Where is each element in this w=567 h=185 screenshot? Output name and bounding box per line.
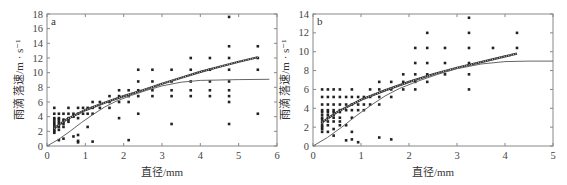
data-point <box>137 112 140 115</box>
data-point <box>426 32 429 35</box>
data-point <box>228 68 231 71</box>
data-point <box>108 95 111 98</box>
data-point <box>327 88 330 91</box>
data-point <box>118 89 121 92</box>
data-point <box>332 120 335 123</box>
data-point <box>444 73 447 76</box>
data-point <box>444 62 447 65</box>
data-point <box>170 95 173 98</box>
data-point <box>108 107 111 110</box>
y-tick-label: 8 <box>38 82 43 93</box>
y-tick-label: 12 <box>33 53 44 64</box>
data-point <box>77 140 80 143</box>
scatter-points <box>321 16 518 143</box>
data-point <box>492 47 495 50</box>
data-point <box>369 88 372 91</box>
data-point <box>327 131 330 134</box>
data-point <box>189 68 192 71</box>
data-point <box>351 109 354 112</box>
data-point <box>151 68 154 71</box>
data-point <box>127 139 130 142</box>
y-tick-label: 2 <box>38 126 43 137</box>
data-point <box>468 16 471 19</box>
y-tick-label: 10 <box>299 46 310 57</box>
data-point <box>339 103 342 106</box>
data-point <box>345 139 348 142</box>
data-point <box>426 62 429 65</box>
data-point <box>339 116 342 119</box>
data-point <box>468 88 471 91</box>
data-point <box>91 140 94 143</box>
data-point <box>62 126 65 129</box>
data-point <box>228 45 231 48</box>
data-point <box>327 109 330 112</box>
data-point <box>468 32 471 35</box>
data-point <box>414 47 417 50</box>
x-tick-label: 5 <box>236 150 241 161</box>
data-point <box>209 95 212 98</box>
data-point <box>351 138 354 141</box>
data-point <box>58 112 61 115</box>
data-point <box>321 124 324 127</box>
data-point <box>257 45 260 48</box>
y-tick-label: 18 <box>33 9 44 20</box>
data-point <box>332 109 335 112</box>
data-point <box>86 126 89 129</box>
data-point <box>426 47 429 50</box>
data-point <box>402 73 405 76</box>
data-point <box>228 57 231 60</box>
x-tick-label: 0 <box>44 150 49 161</box>
data-point <box>327 103 330 106</box>
data-point <box>339 88 342 91</box>
data-point <box>67 107 70 110</box>
data-point <box>414 73 417 76</box>
data-point <box>170 68 173 71</box>
data-point <box>127 89 130 92</box>
data-point <box>332 128 335 131</box>
x-tick-label: 1 <box>83 150 88 161</box>
data-point <box>378 88 381 91</box>
data-point <box>228 95 231 98</box>
data-point <box>86 112 89 115</box>
fit-curve <box>322 54 517 123</box>
x-tick-label: 1 <box>358 150 363 161</box>
x-axis-label: 直径/mm <box>141 165 184 178</box>
data-point <box>351 131 354 134</box>
data-point <box>357 103 360 106</box>
data-point <box>82 107 85 110</box>
data-point <box>378 81 381 84</box>
fit-curve <box>54 57 257 128</box>
data-point <box>390 96 393 99</box>
data-point <box>332 134 335 137</box>
y-tick-label: 6 <box>304 84 309 95</box>
fit-curve-dots <box>54 57 257 128</box>
y-tick-label: 4 <box>304 103 310 114</box>
y-tick-label: 4 <box>38 111 44 122</box>
data-point <box>468 47 471 50</box>
data-point <box>228 123 231 126</box>
data-point <box>363 103 366 106</box>
data-point <box>77 134 80 137</box>
data-point <box>332 96 335 99</box>
data-point <box>378 96 381 99</box>
data-point <box>402 88 405 91</box>
data-point <box>53 112 56 115</box>
data-point <box>228 89 231 92</box>
y-tick-label: 0 <box>304 141 309 152</box>
data-point <box>426 81 429 84</box>
data-point <box>327 120 330 123</box>
x-axis-label: 直径/mm <box>412 165 455 178</box>
data-point <box>151 80 154 83</box>
data-point <box>516 47 519 50</box>
data-point <box>151 95 154 98</box>
x-tick-label: 0 <box>310 150 315 161</box>
y-tick-label: 0 <box>38 141 43 152</box>
panel-a: 0123456024681012141618a直径/mm雨滴 落速/m · s⁻… <box>12 9 280 179</box>
data-point <box>321 109 324 112</box>
data-point <box>58 129 61 132</box>
data-point <box>189 57 192 60</box>
data-point <box>62 112 65 115</box>
panel-b: 01234502468101214b直径/mm雨滴 落速/m · s⁻¹ <box>278 9 556 179</box>
data-point <box>339 124 342 127</box>
data-point <box>228 80 231 83</box>
